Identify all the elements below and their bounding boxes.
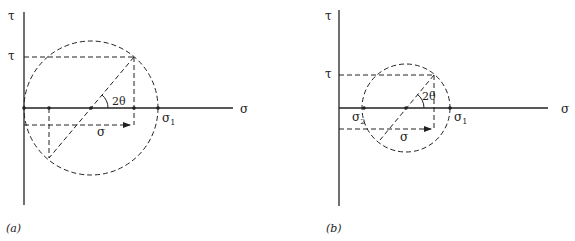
mohr-circle-figure: τ τ σ 2θ σ σ1 (a) τ τ σ 2θ σ σ1 σ2 (b) — [0, 0, 575, 241]
caption-b: (b) — [326, 222, 342, 235]
tau-value-label: τ — [325, 67, 332, 81]
angle-label: 2θ — [422, 90, 436, 103]
sigma-value-label: σ — [97, 125, 105, 139]
sigma2-label: σ2 — [352, 110, 365, 126]
caption-a: (a) — [6, 222, 21, 235]
sigma-value-label: σ — [400, 130, 408, 144]
figure-b: τ τ σ 2θ σ σ1 σ2 (b) — [325, 9, 569, 235]
sigma1-label: σ1 — [454, 110, 467, 126]
tau-axis-label: τ — [325, 9, 332, 23]
tau-value-label: τ — [8, 49, 15, 63]
sigma-axis-label: σ — [240, 102, 248, 116]
angle-label: 2θ — [112, 95, 126, 108]
diagram-canvas: τ τ σ 2θ σ σ1 (a) τ τ σ 2θ σ σ1 σ2 (b) — [0, 0, 575, 241]
tau-axis-label: τ — [8, 9, 15, 23]
angle-arc — [102, 95, 108, 108]
sigma1-label: σ1 — [162, 111, 175, 127]
sigma-axis-label: σ — [561, 102, 569, 116]
figure-a: τ τ σ 2θ σ σ1 (a) — [6, 9, 248, 235]
